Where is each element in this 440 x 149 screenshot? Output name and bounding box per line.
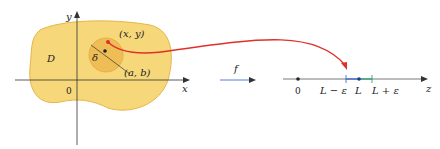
y-axis-arrow-icon: [74, 11, 80, 18]
mapping-arrow-icon: [341, 62, 347, 70]
z-origin-label: 0: [295, 86, 301, 96]
point-l: [357, 77, 361, 81]
l-label: L: [354, 85, 362, 96]
f-arrow-head-icon: [249, 77, 256, 83]
z-axis-arrow-icon: [421, 76, 428, 82]
origin-label: 0: [66, 86, 72, 96]
point-ab: [103, 49, 107, 53]
map-label: f: [233, 63, 240, 74]
z-origin-point: [296, 77, 300, 81]
l-plus-label: L + ε: [371, 85, 399, 96]
domain-label: D: [46, 53, 55, 64]
delta-label: δ: [92, 52, 98, 63]
l-minus-label: L − ε: [319, 85, 347, 96]
y-axis-label: y: [65, 11, 72, 22]
point-xy-label: (x, y): [119, 28, 145, 39]
point-ab-label: (a, b): [124, 67, 151, 78]
z-axis-label: z: [425, 83, 432, 94]
x-axis-label: x: [182, 83, 188, 94]
limit-definition-diagram: D 0 x y (x, y) (a, b) δ f z 0 L − ε L L …: [0, 0, 440, 149]
